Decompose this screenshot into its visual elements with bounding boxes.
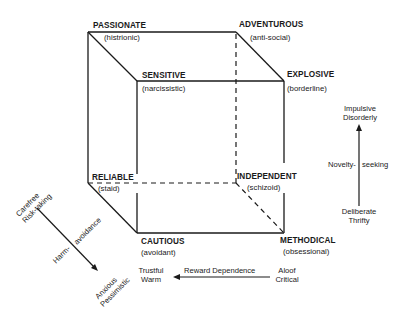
reward-high-pole: Trustful Warm [134, 266, 168, 284]
reward-low-line1: Aloof [270, 266, 304, 275]
novelty-low-line2: Thrifty [337, 216, 381, 225]
novelty-low-pole: Deliberate Thrifty [337, 207, 381, 225]
novelty-low-line1: Deliberate [337, 207, 381, 216]
reward-low-line2: Critical [270, 275, 304, 284]
vertex-methodical-label: METHODICAL [280, 237, 336, 245]
vertex-reliable-sub: (staid) [98, 185, 120, 193]
vertex-sensitive-label: SENSITIVE [142, 72, 186, 80]
vertex-methodical-sub: (obsessional) [283, 248, 329, 256]
vertex-reliable-label: RELIABLE [92, 174, 134, 182]
vertex-adventurous-label: ADVENTUROUS [239, 21, 303, 29]
reward-dependence-arrowhead-icon [173, 274, 180, 280]
vertex-cautious-label: CAUTIOUS [141, 238, 185, 246]
reward-low-pole: Aloof Critical [270, 266, 304, 284]
vertex-explosive-label: EXPLOSIVE [287, 71, 334, 79]
novelty-high-line2: Disorderly [340, 113, 380, 122]
novelty-name-right: seeking [362, 160, 388, 169]
vertex-explosive-sub: (borderline) [287, 85, 327, 93]
vertex-passionate-label: PASSIONATE [93, 22, 146, 30]
reward-dependence-name: Reward Dependence [182, 266, 257, 275]
vertex-independent-label: INDEPENDENT [237, 173, 297, 181]
novelty-name-left: Novelty- [328, 160, 356, 169]
novelty-high-pole: Impulsive Disorderly [340, 104, 380, 122]
vertex-independent-sub: (schizoid) [247, 184, 280, 192]
reward-high-line2: Warm [134, 275, 168, 284]
novelty-seeking-arrowhead-icon [356, 124, 362, 131]
reward-high-line1: Trustful [134, 266, 168, 275]
vertex-passionate-sub: (histrionic) [104, 34, 140, 42]
vertex-sensitive-sub: (narcissistic) [142, 85, 185, 93]
vertex-cautious-sub: (avoidant) [141, 249, 176, 257]
novelty-high-line1: Impulsive [340, 104, 380, 113]
vertex-adventurous-sub: (anti-social) [250, 34, 290, 42]
